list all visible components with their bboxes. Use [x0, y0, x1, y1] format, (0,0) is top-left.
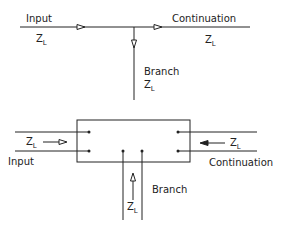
top-branch-label: Branch — [144, 66, 179, 77]
top-input-label: Input — [26, 13, 52, 24]
bottom-continuation-impedance: ZL — [230, 137, 241, 151]
arrow-right-icon — [59, 140, 67, 145]
arrow-left-icon — [200, 141, 208, 146]
arrow-right-icon — [154, 25, 162, 30]
tee-junction-diagram: Input ZL Continuation ZL Branch ZL ZL In… — [0, 0, 285, 233]
bottom-input-impedance: ZL — [26, 136, 37, 150]
top-input-impedance: ZL — [36, 33, 47, 47]
top-continuation-impedance: ZL — [205, 34, 216, 48]
bottom-branch-impedance: ZL — [127, 201, 138, 215]
bottom-branch-label: Branch — [152, 184, 187, 195]
top-continuation-label: Continuation — [172, 13, 236, 24]
terminal-dots — [88, 131, 180, 153]
bottom-continuation-label: Continuation — [209, 157, 273, 168]
bottom-diagram — [15, 120, 257, 220]
bottom-input-label: Input — [8, 156, 34, 167]
junction-box — [77, 120, 190, 162]
top-branch-impedance: ZL — [144, 79, 155, 93]
arrow-up-icon — [131, 173, 136, 181]
arrow-right-icon — [77, 25, 85, 30]
arrow-down-icon — [132, 40, 137, 48]
top-diagram — [20, 25, 250, 101]
